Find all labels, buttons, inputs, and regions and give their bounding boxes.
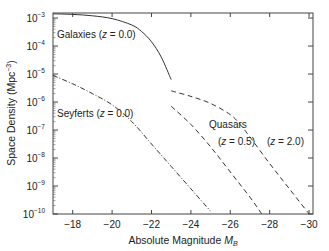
y-tick-label: 10−9 [26, 179, 45, 192]
x-tick-label: −24 [182, 219, 199, 230]
quasars-z20-label: (z = 2.0) [267, 136, 304, 147]
y-tick-label: 10−10 [23, 207, 46, 220]
y-tick-label: 10−6 [26, 95, 45, 108]
x-tick-label: −26 [222, 219, 239, 230]
y-tick-label: 10−3 [26, 11, 45, 24]
y-tick-label: 10−5 [26, 67, 45, 80]
seyferts-label: Seyferts (z = 0.0) [57, 108, 133, 119]
x-tick-label: −20 [104, 219, 121, 230]
y-tick-label: 10−4 [26, 39, 45, 52]
quasars-z05-label: (z = 0.5) [218, 136, 255, 147]
y-tick-labels: 10−310−410−510−610−710−810−910−10 [23, 11, 46, 220]
x-tick-label: −22 [143, 219, 160, 230]
x-tick-label: −28 [261, 219, 278, 230]
x-tick-label: −30 [301, 219, 318, 230]
y-tick-label: 10−8 [26, 151, 45, 164]
quasars-label: Quasars [209, 119, 247, 130]
x-tick-label: −18 [64, 219, 81, 230]
y-axis-title: Space Density (Mpc−3) [5, 60, 17, 165]
x-axis-title: Absolute Magnitude MB [128, 234, 237, 247]
galaxies-label: Galaxies (z = 0.0) [57, 29, 136, 40]
series-galaxies-z-0-0 [53, 14, 171, 80]
series-quasars-z-2-0 [171, 91, 309, 214]
space-density-chart: −18−20−22−24−26−28−30 10−310−410−510−610… [0, 0, 329, 251]
series-seyferts-z-0-0 [53, 75, 211, 211]
y-tick-label: 10−7 [26, 123, 45, 136]
x-tick-labels: −18−20−22−24−26−28−30 [64, 219, 318, 230]
